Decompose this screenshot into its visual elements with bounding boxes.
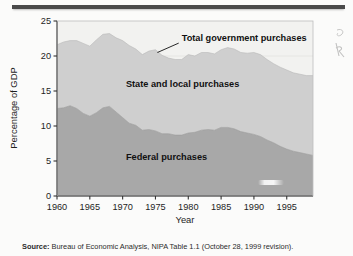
y-tick-label: 15: [41, 86, 51, 96]
y-tick-label: 10: [41, 121, 51, 131]
x-axis-title: Year: [176, 214, 195, 225]
x-tick-label: 1965: [80, 202, 100, 212]
y-tick-label: 25: [41, 16, 51, 26]
y-axis-ticks: 0510152025: [41, 16, 57, 201]
stacked-area-chart: 0510152025 19601965197019751980198519901…: [0, 12, 353, 227]
source-note: Source: Bureau of Economic Analysis, NIP…: [22, 241, 347, 252]
x-tick-label: 1995: [277, 202, 297, 212]
y-tick-label: 5: [46, 156, 51, 166]
x-tick-label: 1970: [112, 202, 132, 212]
y-tick-label: 20: [41, 51, 51, 61]
annotation-state-and-local-purchases: State and local purchases: [126, 79, 239, 89]
source-label: Source:: [22, 242, 50, 251]
top-divider-rule: [12, 5, 345, 9]
y-tick-label: 0: [46, 191, 51, 201]
x-tick-label: 1990: [244, 202, 264, 212]
x-tick-label: 1975: [145, 202, 165, 212]
chart-area: 0510152025 19601965197019751980198519901…: [0, 12, 353, 227]
annotation-total-government-purchases: Total government purchases: [182, 33, 307, 43]
source-text: Bureau of Economic Analysis, NIPA Table …: [50, 242, 294, 251]
x-tick-label: 1960: [47, 202, 67, 212]
figure-container: 0510152025 19601965197019751980198519901…: [0, 0, 353, 256]
x-tick-label: 1980: [178, 202, 198, 212]
annotation-federal-purchases: Federal purchases: [126, 152, 207, 162]
x-tick-label: 1985: [211, 202, 231, 212]
x-axis-ticks: 19601965197019751980198519901995: [47, 196, 297, 212]
y-axis-title: Percentage of GDP: [8, 67, 19, 148]
